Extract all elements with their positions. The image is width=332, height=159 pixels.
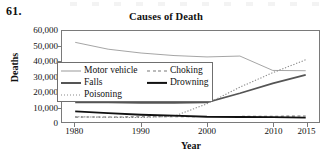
page-top-artifact xyxy=(70,2,320,6)
legend-label: Drowning xyxy=(170,78,209,88)
x-tick-label: 2010 xyxy=(264,126,282,136)
y-tick-label: 10,000 xyxy=(33,103,58,113)
legend-label: Motor vehicle xyxy=(84,66,138,76)
legend-swatch-choking-icon xyxy=(147,68,167,75)
x-tick-label: 1990 xyxy=(132,126,150,136)
x-axis-label: Year xyxy=(60,140,322,151)
y-tick-label: 0 xyxy=(54,118,59,128)
legend-swatch-motor-vehicle-icon xyxy=(61,68,81,75)
legend-item-motor-vehicle: Motor vehicle xyxy=(61,66,147,76)
legend-item-drowning: Drowning xyxy=(147,78,217,88)
legend-item-poisoning: Poisoning xyxy=(61,90,147,100)
x-tick-label: 2015 xyxy=(298,126,316,136)
x-tick-label: 1980 xyxy=(65,126,83,136)
legend-swatch-drowning-icon xyxy=(147,80,167,87)
y-tick-label: 50,000 xyxy=(33,41,58,51)
legend-label: Choking xyxy=(170,66,203,76)
chart-legend: Motor vehicle Choking Falls Drowning Poi… xyxy=(57,62,213,102)
figure-page: 61. Causes of Death Deaths 60,000 50,000… xyxy=(0,0,332,159)
legend-label: Poisoning xyxy=(84,90,122,100)
y-tick-label: 60,000 xyxy=(33,25,58,35)
y-tick-label: 20,000 xyxy=(33,87,58,97)
x-tick-label: 2000 xyxy=(198,126,216,136)
legend-label: Falls xyxy=(84,78,102,88)
legend-item-falls: Falls xyxy=(61,78,147,88)
legend-swatch-poisoning-icon xyxy=(61,92,81,99)
y-axis-tick-labels: 60,000 50,000 40,000 30,000 20,000 10,00… xyxy=(0,0,58,159)
legend-item-choking: Choking xyxy=(147,66,217,76)
legend-swatch-falls-icon xyxy=(61,80,81,87)
y-tick-label: 40,000 xyxy=(33,56,58,66)
y-tick-label: 30,000 xyxy=(33,72,58,82)
